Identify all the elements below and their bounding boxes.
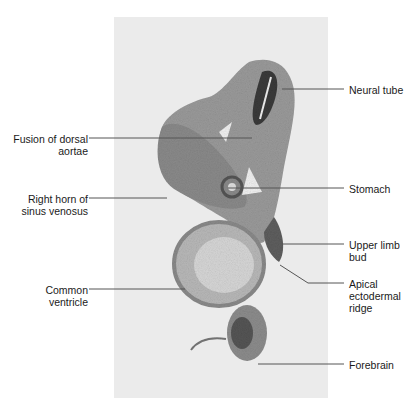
label-common-ventricle: Common ventricle xyxy=(45,284,88,308)
leader-apical-ectodermal-ridge xyxy=(280,265,344,283)
embryo-section-figure: Neural tube Stomach Upper limb bud Apica… xyxy=(0,0,417,398)
label-fusion-of-dorsal-aortae: Fusion of dorsal aortae xyxy=(13,133,88,157)
label-upper-limb-bud: Upper limb bud xyxy=(349,239,400,263)
label-right-horn-of-sinus-venosus: Right horn of sinus venosus xyxy=(21,193,88,217)
label-forebrain: Forebrain xyxy=(349,359,394,371)
label-neural-tube: Neural tube xyxy=(349,84,403,96)
label-apical-ectodermal-ridge: Apical ectodermal ridge xyxy=(349,278,401,314)
label-stomach: Stomach xyxy=(349,183,390,195)
